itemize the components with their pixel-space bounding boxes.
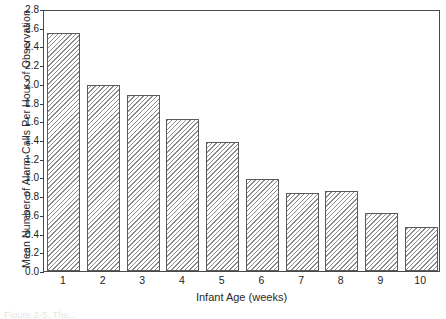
x-axis-tick-label: 8 [327,274,355,287]
y-axis-tick-label: 0.8 [14,192,39,202]
bar [206,142,239,271]
bar [166,119,199,271]
bar [246,179,279,271]
x-axis-tick-label: 10 [406,274,434,287]
y-axis-tick-label: 1.4 [14,136,39,146]
y-axis-tick-label: 1.2 [14,155,39,165]
bar [365,213,398,271]
y-axis-tick-label: 0.4 [14,230,39,240]
y-axis-tick-label: 1.6 [14,117,39,127]
bars-layer [44,11,439,271]
bar [405,227,438,271]
x-axis-tick-label: 7 [287,274,315,287]
x-axis-title: Infant Age (weeks) [43,291,440,303]
figure-caption-remnant: Figure 2-5. The... [4,309,77,318]
y-axis-tick-label: 1.8 [14,99,39,109]
plot-area [43,10,440,272]
x-axis-tick-label: 4 [168,274,196,287]
bar [286,193,319,271]
y-axis-tick-label: 2.4 [14,42,39,52]
x-axis-tick-labels: 12345678910 [43,274,440,290]
y-axis-tick-label: 2.0 [14,80,39,90]
y-axis-tick-label: 0.6 [14,211,39,221]
x-axis-tick-label: 9 [366,274,394,287]
x-axis-tick-label: 1 [49,274,77,287]
y-axis-tick-label: 0.0 [14,267,39,277]
bar [47,33,80,271]
y-axis-tick-label: 2.6 [14,24,39,34]
y-axis-tick-label: 1.0 [14,173,39,183]
y-axis-tick-label: 0.2 [14,248,39,258]
y-axis-tick-label: 2.8 [14,5,39,15]
x-axis-tick-label: 5 [208,274,236,287]
bar [325,191,358,271]
y-axis-tick-labels: 0.00.20.40.60.81.01.21.41.61.82.02.22.42… [14,0,39,290]
y-axis-tick-mark [40,272,44,273]
bar [87,85,120,271]
x-axis-tick-label: 2 [89,274,117,287]
figure-container: Mean Number of Alarm Calls Per Hour of O… [0,0,446,319]
y-axis-tick-label: 2.2 [14,61,39,71]
x-axis-tick-label: 6 [247,274,275,287]
bar [127,95,160,271]
x-axis-tick-label: 3 [128,274,156,287]
